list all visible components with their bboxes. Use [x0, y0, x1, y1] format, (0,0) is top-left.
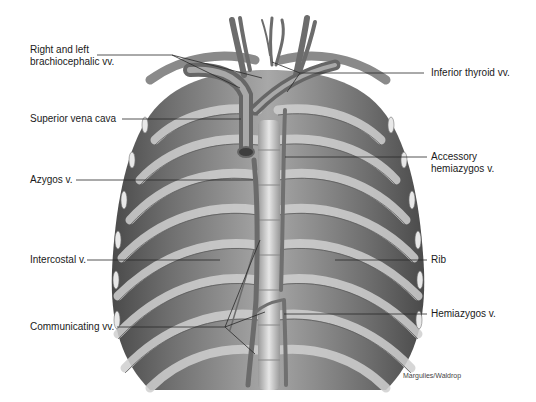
- label-superior-vena-cava: Superior vena cava: [30, 113, 116, 125]
- label-communicating-veins: Communicating vv.: [30, 321, 114, 333]
- label-inferior-thyroid-veins: Inferior thyroid vv.: [431, 67, 510, 79]
- neck-veins: [232, 18, 315, 75]
- label-accessory-hemiazygos-vein: Accessory hemiazygos v.: [431, 151, 494, 175]
- label-line: brachiocephalic vv.: [30, 56, 114, 68]
- label-rib: Rib: [431, 254, 446, 266]
- vertebral-column: [258, 120, 280, 390]
- right-thoracic-wall: [268, 70, 424, 390]
- anatomy-figure: Right and left brachiocephalic vv. Super…: [0, 0, 536, 402]
- label-brachiocephalic-veins: Right and left brachiocephalic vv.: [30, 44, 114, 68]
- label-hemiazygos-vein: Hemiazygos v.: [431, 308, 496, 320]
- label-intercostal-vein: Intercostal v.: [30, 254, 86, 266]
- label-line: Right and left: [30, 44, 114, 56]
- label-azygos-vein: Azygos v.: [30, 174, 73, 186]
- illustrator-credit: Margulies/Waldrop: [403, 372, 461, 379]
- label-line: Accessory: [431, 151, 494, 163]
- label-line: hemiazygos v.: [431, 163, 494, 175]
